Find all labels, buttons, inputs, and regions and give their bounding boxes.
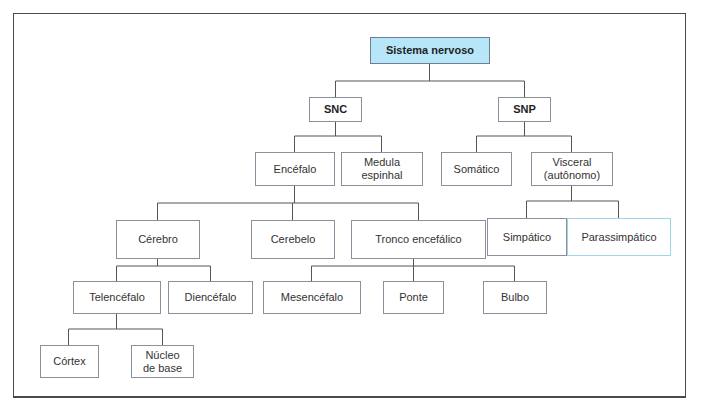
node-snc: SNC [309, 97, 362, 122]
node-simpatico: Simpático [487, 218, 567, 256]
node-label: Cérebro [138, 233, 178, 246]
node-cortex: Córtex [40, 345, 99, 378]
node-tronco-encefalico: Tronco encefálico [351, 220, 486, 259]
node-label: Telencéfalo [89, 291, 145, 304]
node-label: Córtex [53, 355, 85, 368]
node-label: SNC [324, 103, 347, 116]
node-somatico: Somático [441, 152, 512, 186]
node-label: Medula espinhal [362, 156, 403, 182]
node-label: Bulbo [501, 291, 529, 304]
node-cerebelo: Cerebelo [251, 220, 335, 259]
node-label: Encéfalo [274, 163, 317, 176]
node-label: Parassimpático [581, 231, 656, 244]
node-bulbo: Bulbo [483, 281, 547, 314]
node-telencefalo: Telencéfalo [73, 281, 161, 314]
node-label: Sistema nervoso [386, 44, 474, 57]
connector-lines [0, 0, 701, 410]
node-visceral: Visceral (autônomo) [531, 152, 613, 186]
node-label: Simpático [503, 231, 551, 244]
node-label: Visceral (autônomo) [544, 156, 600, 182]
node-label: Somático [454, 163, 500, 176]
node-label: Mesencéfalo [281, 291, 343, 304]
node-label: Tronco encefálico [375, 233, 461, 246]
node-label: SNP [513, 103, 536, 116]
node-sistema-nervoso: Sistema nervoso [370, 37, 490, 64]
node-ponte: Ponte [383, 281, 444, 314]
node-label: Diencéfalo [185, 291, 237, 304]
node-snp: SNP [498, 97, 551, 122]
node-medula-espinhal: Medula espinhal [341, 152, 423, 186]
node-label: Núcleo de base [143, 349, 182, 375]
node-encefalo: Encéfalo [255, 152, 335, 186]
node-diencefalo: Diencéfalo [168, 281, 253, 314]
node-label: Ponte [399, 291, 428, 304]
node-cerebro: Cérebro [116, 220, 200, 259]
node-label: Cerebelo [271, 233, 316, 246]
node-mesencefalo: Mesencéfalo [263, 281, 361, 314]
node-nucleo-de-base: Núcleo de base [131, 345, 194, 378]
node-parassimpatico: Parassimpático [567, 218, 671, 256]
